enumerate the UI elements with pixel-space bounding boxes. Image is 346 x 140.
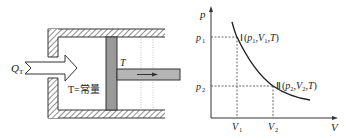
heat-label: Q [11,62,19,74]
point-2-annotation: Ⅱ(p2,V2,T) [276,80,317,92]
cylinder-bottom-wall [48,110,165,118]
x-axis-arrow-icon [332,116,338,120]
cylinder-left-wall-lower [48,78,58,118]
y-axis-arrow-icon [209,6,213,12]
heat-label-subscript: T [19,68,24,76]
tick-p1: p 1 [195,32,205,44]
svg-text:2: 2 [275,126,278,133]
heat-flow-arrow-icon [25,55,77,81]
svg-text:2: 2 [202,86,205,93]
svg-text:p: p [195,81,201,92]
piston [106,37,117,110]
svg-text:p: p [195,32,201,43]
piston-temperature-label: T [120,57,127,68]
figure-canvas: Q T T T=常量 p V p 1 p 2 V 1 [0,0,346,140]
pv-chart: p V p 1 p 2 V 1 V 2 Ⅰ(p1,V1,T) Ⅱ(p2,V2,T… [195,6,339,133]
x-axis-label: V [331,121,339,133]
cylinder-top-wall [48,29,165,37]
tick-v2: V 2 [268,121,278,133]
svg-text:1: 1 [239,126,242,133]
point-1-annotation: Ⅰ(p1,V1,T) [240,32,279,44]
tick-v1: V 1 [232,121,242,133]
tick-p2: p 2 [195,81,205,93]
constant-temperature-label: T=常量 [68,83,100,95]
cylinder-left-wall-upper [48,29,58,57]
svg-text:1: 1 [202,37,205,44]
piston-cylinder-diagram: Q T T T=常量 [11,29,180,118]
y-axis-label: p [199,8,206,20]
